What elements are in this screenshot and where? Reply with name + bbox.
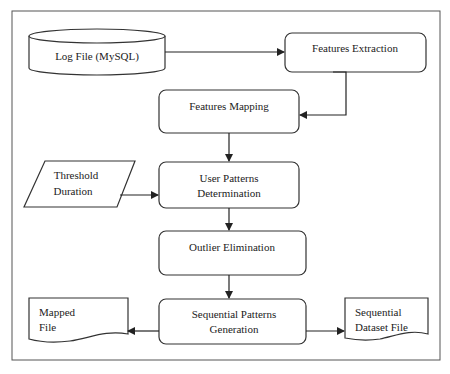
node-sequential-patterns-generation: Sequential Patterns Generation: [159, 299, 306, 344]
node-features-extraction: Features Extraction: [285, 33, 426, 72]
node-log-file: Log File (MySQL): [29, 29, 165, 75]
mapped-file-line1: Mapped: [39, 306, 76, 318]
sequential-patterns-line1: Sequential Patterns: [192, 308, 277, 320]
flowchart-canvas: Log File (MySQL) Features Extraction Fea…: [0, 0, 450, 374]
edge-extraction-to-mapping: [300, 72, 346, 115]
sequential-dataset-line1: Sequential: [355, 306, 401, 318]
features-mapping-label: Features Mapping: [189, 100, 269, 112]
node-threshold-duration: Threshold Duration: [24, 161, 135, 207]
threshold-duration-line2: Duration: [53, 185, 93, 197]
outlier-elimination-label: Outlier Elimination: [189, 241, 275, 253]
sequential-patterns-line2: Generation: [210, 323, 259, 335]
features-extraction-label: Features Extraction: [312, 42, 398, 54]
sequential-dataset-line2: Dataset File: [355, 321, 408, 333]
node-mapped-file: Mapped File: [29, 298, 128, 342]
mapped-file-line2: File: [39, 321, 56, 333]
threshold-duration-line1: Threshold: [54, 169, 99, 181]
node-sequential-dataset-file: Sequential Dataset File: [345, 298, 428, 340]
node-features-mapping: Features Mapping: [159, 90, 299, 133]
user-patterns-line2: Determination: [197, 187, 261, 199]
log-file-label: Log File (MySQL): [55, 50, 139, 63]
node-outlier-elimination: Outlier Elimination: [159, 231, 306, 275]
node-user-patterns-determination: User Patterns Determination: [159, 162, 299, 208]
user-patterns-line1: User Patterns: [200, 172, 259, 184]
